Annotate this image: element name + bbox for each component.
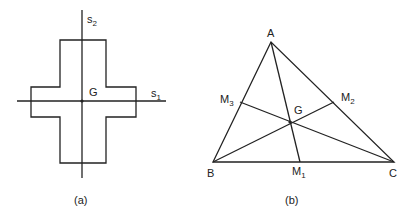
label-c: C [389, 168, 397, 179]
caption-a: (a) [74, 195, 87, 206]
centroid-point-a [80, 99, 83, 102]
label-m1: M1 [292, 166, 306, 180]
diagram-lines [0, 0, 411, 223]
label-m3: M3 [220, 94, 234, 108]
label-s2: s2 [87, 14, 97, 28]
label-a: A [267, 28, 274, 39]
label-m2: M2 [341, 92, 355, 106]
centroid-point-b [288, 120, 291, 123]
label-s1: s1 [151, 88, 161, 102]
label-g-b: G [294, 105, 303, 116]
caption-b: (b) [285, 195, 298, 206]
figure: s2 s1 G (a) A B C M1 M2 M3 G (b) [0, 0, 411, 223]
label-g-a: G [89, 87, 98, 98]
median-a [271, 42, 300, 162]
label-b: B [207, 168, 214, 179]
